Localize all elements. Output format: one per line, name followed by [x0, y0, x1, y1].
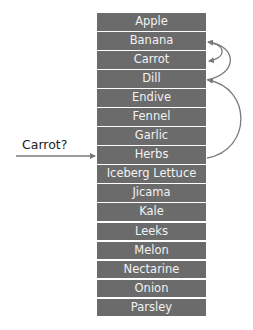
list-item-kale: Kale — [97, 203, 206, 221]
list-item-leeks: Leeks — [97, 223, 206, 241]
jump-arrow-banana-to-carrot-icon — [209, 43, 222, 61]
list-item-melon: Melon — [97, 242, 206, 260]
list-item-fennel: Fennel — [97, 108, 206, 126]
list-item-nectarine: Nectarine — [97, 261, 206, 279]
list-item-dill: Dill — [97, 70, 206, 88]
list-item-carrot: Carrot — [97, 51, 206, 69]
list-item-banana: Banana — [97, 32, 206, 50]
jump-arrow-dill-to-banana-icon — [207, 42, 230, 80]
list-item-parsley: Parsley — [97, 299, 206, 317]
query-label: Carrot? — [22, 137, 67, 152]
sorted-list: Apple Banana Carrot Dill Endive Fennel G… — [97, 13, 206, 318]
list-item-jicama: Jicama — [97, 184, 206, 202]
list-item-endive: Endive — [97, 89, 206, 107]
list-item-garlic: Garlic — [97, 127, 206, 145]
list-item-onion: Onion — [97, 280, 206, 298]
list-item-herbs: Herbs — [97, 146, 206, 164]
list-item-iceberg-lettuce: Iceberg Lettuce — [97, 165, 206, 183]
jump-arrow-herbs-to-dill-icon — [207, 80, 241, 158]
list-item-apple: Apple — [97, 13, 206, 31]
